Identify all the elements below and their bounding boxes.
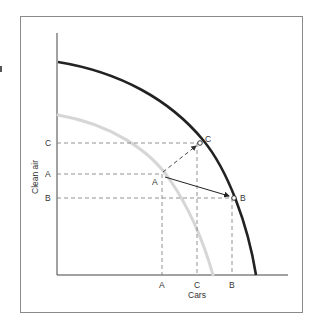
outer-frontier-curve <box>58 62 256 275</box>
x-tick-c: C <box>194 280 200 290</box>
arrow-a-to-c <box>163 146 196 172</box>
point-b-marker <box>232 196 237 201</box>
x-tick-a: A <box>159 280 165 290</box>
point-c-marker <box>198 141 203 146</box>
x-tick-b: B <box>229 280 235 290</box>
y-axis-title: Clean air <box>30 160 40 194</box>
y-tick-b: B <box>45 193 51 203</box>
inner-frontier-curve <box>58 115 213 275</box>
y-tick-c: C <box>45 138 51 148</box>
y-tick-a: A <box>45 169 51 179</box>
point-b-label: B <box>240 193 246 203</box>
point-c-label: C <box>205 134 211 144</box>
x-axis-title: Cars <box>188 290 206 300</box>
point-a-label: A <box>152 177 158 187</box>
ppf-diagram: C A B C A B A C B Cars Clean air <box>0 0 320 332</box>
